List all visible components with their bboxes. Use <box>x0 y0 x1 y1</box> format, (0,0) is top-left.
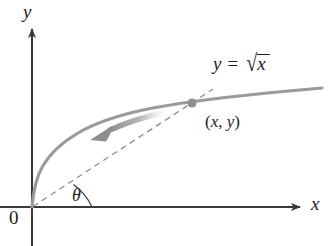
point-label: (x, y) <box>205 113 240 130</box>
radical-expression: √x <box>244 53 266 74</box>
diagram-svg <box>0 0 329 246</box>
radicand: x <box>257 53 265 74</box>
equation-lhs: y <box>213 53 221 74</box>
point-label-comma: , <box>218 112 227 131</box>
y-axis-label: y <box>23 2 31 21</box>
point-label-close: ) <box>234 112 240 131</box>
x-axis-label: x <box>311 194 319 213</box>
origin-label: 0 <box>9 208 19 227</box>
motion-arrow-icon <box>90 113 163 142</box>
theta-label: θ <box>72 186 81 204</box>
point-marker <box>187 98 196 107</box>
equation-equals: = <box>226 53 239 74</box>
figure-canvas: y x 0 θ (x, y) y = √x <box>0 0 329 246</box>
radical-sign-icon: √ <box>246 51 257 75</box>
radical-vinculum <box>257 54 270 55</box>
curve-equation-label: y = √x <box>213 53 266 74</box>
